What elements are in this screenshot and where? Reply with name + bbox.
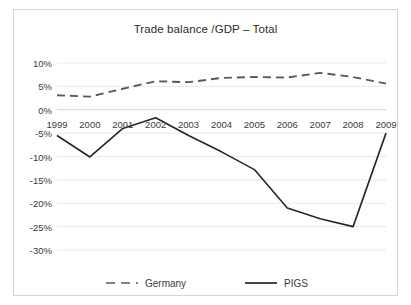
x-axis-tick-label: 2003 [178, 119, 199, 130]
x-axis-tick-label: 2005 [244, 119, 265, 130]
y-axis-tick-label: -25% [10, 221, 52, 232]
x-axis-tick-label: 2008 [343, 119, 364, 130]
legend-swatch-dashed-icon [105, 278, 139, 288]
x-axis-tick-label: 2004 [211, 119, 232, 130]
y-axis-tick-label: 0% [10, 104, 52, 115]
series-line-germany [57, 73, 386, 97]
x-axis-tick-label: 2006 [277, 119, 298, 130]
y-axis-tick-label: -30% [10, 245, 52, 256]
x-axis-tick-label: 1999 [46, 119, 67, 130]
legend-item-germany: Germany [105, 278, 186, 289]
y-axis-tick-label: -20% [10, 198, 52, 209]
y-axis-tick-label: -15% [10, 174, 52, 185]
x-axis-tick-labels: 1999200020012002200320042005200620072008… [57, 119, 386, 133]
chart-title: Trade balance /GDP – Total [14, 23, 397, 35]
x-axis-tick-label: 2001 [112, 119, 133, 130]
legend-swatch-solid-icon [244, 278, 278, 288]
chart-legend: Germany PIGS [14, 272, 399, 294]
y-axis-tick-labels: 10%5%0%-5%-10%-15%-20%-25%-30% [14, 63, 52, 250]
x-axis-tick-label: 2000 [79, 119, 100, 130]
series-line-pigs [57, 118, 386, 227]
x-axis-tick-label: 2002 [145, 119, 166, 130]
plot-svg [57, 63, 386, 250]
y-axis-tick-label: 10% [10, 58, 52, 69]
x-axis-tick-label: 2009 [375, 119, 396, 130]
legend-item-pigs: PIGS [244, 278, 308, 289]
y-axis-tick-label: 5% [10, 81, 52, 92]
y-axis-tick-label: -10% [10, 151, 52, 162]
legend-label-pigs: PIGS [284, 278, 308, 289]
legend-label-germany: Germany [145, 278, 186, 289]
chart-container: Trade balance /GDP – Total 10%5%0%-5%-10… [13, 9, 398, 296]
x-axis-tick-label: 2007 [310, 119, 331, 130]
plot-area [57, 63, 386, 250]
